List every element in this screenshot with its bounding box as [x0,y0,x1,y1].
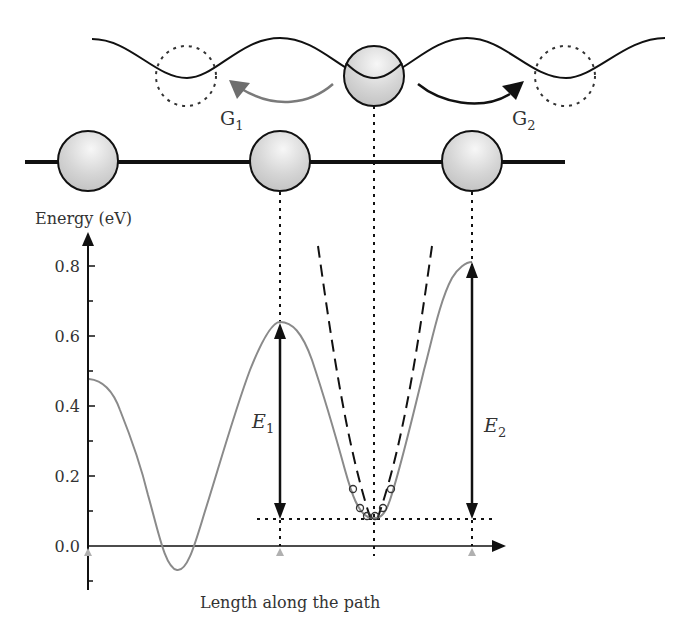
atom-ball-2 [250,131,310,191]
e2-arrowhead-down-icon [466,503,478,519]
g1-arrow [240,84,333,102]
x-axis-arrowhead-icon [492,540,506,552]
y-tick-0.2: 0.2 [55,467,80,486]
e1-barrier: E1 [251,323,286,519]
y-axis-arrowhead-icon [82,232,94,246]
g1-label: G1 [220,107,243,133]
top-wave-group: G1 G2 [92,38,665,133]
site-marker-1-icon [84,548,92,556]
axes: Energy (eV) 0.8 0.6 0.4 0.2 0.0 Len [35,209,506,612]
e1-arrowhead-down-icon [274,503,286,519]
e2-barrier: E2 [466,262,506,519]
y-tick-0.6: 0.6 [55,327,80,346]
y-axis-title: Energy (eV) [35,209,132,228]
g2-arrow [418,84,510,103]
g1-arrowhead-icon [229,80,250,99]
y-tick-0.4: 0.4 [55,397,80,416]
y-tick-0.8: 0.8 [55,257,80,276]
e1-arrowhead-up-icon [274,323,286,339]
e2-label: E2 [483,414,506,440]
site-marker-2-icon [276,548,284,556]
top-ball [344,46,404,106]
energy-diagram: G1 G2 Energy (eV) [0,0,696,633]
e2-arrowhead-up-icon [466,262,478,278]
atom-row [25,131,565,191]
dashed-site-right [535,46,595,106]
g2-label: G2 [512,107,535,133]
atom-ball-1 [58,131,118,191]
atom-ball-3 [442,131,502,191]
site-marker-3-icon [468,548,476,556]
e1-label: E1 [251,410,274,436]
dashed-site-left [156,46,216,106]
y-tick-0.0: 0.0 [55,537,80,556]
x-axis-title: Length along the path [200,593,380,612]
